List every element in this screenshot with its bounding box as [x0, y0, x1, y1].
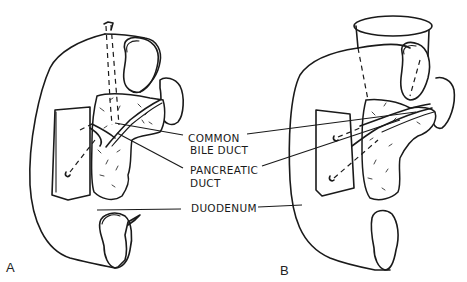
label-common-bile-duct-1: COMMON: [188, 132, 240, 144]
duodenal-knob-b: [401, 42, 430, 100]
flap-a: [52, 107, 90, 200]
label-duodenum: DUODENUM: [191, 202, 257, 214]
pylorus-a: [124, 38, 159, 93]
lower-knob-b: [371, 211, 398, 270]
panel-label-a: A: [6, 260, 15, 275]
panel-b: [289, 16, 454, 270]
panel-label-b: B: [280, 263, 289, 278]
panel-a: [30, 22, 183, 268]
label-common-bile-duct-2: BILE DUCT: [190, 144, 249, 156]
pylorus-b-top: [354, 16, 432, 36]
anatomy-diagram: COMMON BILE DUCT PANCREATIC DUCT DUODENU…: [0, 0, 467, 282]
label-pancreatic-duct-2: DUCT: [190, 177, 221, 189]
lower-knob-a: [99, 213, 131, 268]
label-pancreatic-duct-1: PANCREATIC: [190, 164, 258, 176]
